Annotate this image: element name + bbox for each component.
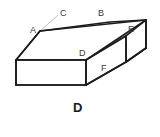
vertex-label-d: D (79, 49, 86, 58)
geometry-figure: A B C D E F D (0, 0, 160, 137)
figure-caption: D (73, 101, 82, 114)
vertex-label-c: C (60, 9, 67, 18)
vertex-label-a: A (30, 26, 36, 35)
vertex-label-f: F (101, 64, 107, 73)
vertex-label-e: E (128, 25, 134, 34)
vertex-label-b: B (98, 9, 104, 18)
solid-shape-drawing (0, 0, 160, 137)
front-face (16, 60, 86, 85)
